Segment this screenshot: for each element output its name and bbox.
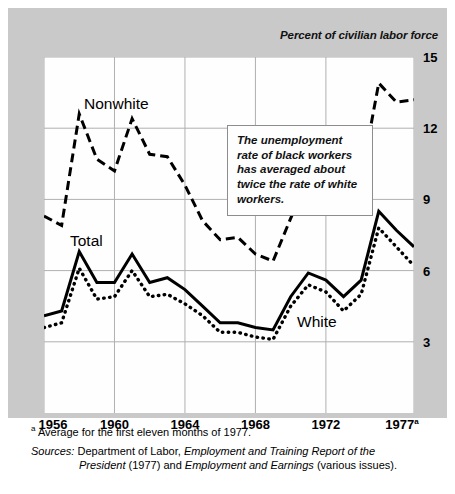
- chart-panel: Percent of civilian labor force Nonwhite…: [8, 8, 447, 418]
- series-label-nonwhite: Nonwhite: [84, 95, 149, 113]
- y-axis-title: Percent of civilian labor force: [280, 29, 438, 41]
- sources-italic-3: Employment and Earnings: [185, 459, 314, 471]
- footnotes: a Average for the first eleven months of…: [8, 424, 447, 473]
- sources-label: Sources:: [31, 445, 74, 457]
- chart-figure: Percent of civilian labor force Nonwhite…: [0, 0, 455, 494]
- sources-text-2: (1977) and: [125, 459, 184, 471]
- y-tick-label: 12: [423, 121, 437, 136]
- footnote-marker: a: [31, 424, 35, 433]
- series-label-white: White: [297, 313, 337, 331]
- sources-italic-1: Employment and Training Report of the: [184, 445, 375, 457]
- sources-note: Sources: Department of Labor, Employment…: [31, 444, 447, 473]
- sources-italic-2: President: [79, 459, 125, 471]
- y-tick-label: 6: [423, 263, 430, 278]
- y-tick-label: 3: [423, 334, 430, 349]
- y-tick-label: 15: [423, 50, 437, 65]
- footnote-a: a Average for the first eleven months of…: [31, 424, 447, 438]
- callout-text: The unemployment rate of black workers h…: [237, 133, 364, 207]
- series-label-total: Total: [70, 232, 103, 250]
- sources-text-3: (various issues).: [314, 459, 397, 471]
- callout-box: The unemployment rate of black workers h…: [227, 125, 373, 216]
- sources-text-1: Department of Labor,: [77, 445, 183, 457]
- y-tick-label: 9: [423, 192, 430, 207]
- plot-area: Nonwhite Total White The unemployment ra…: [44, 57, 414, 413]
- sources-line-2: President (1977) and Employment and Earn…: [79, 458, 447, 473]
- footnote-a-text: Average for the first eleven months of 1…: [38, 426, 251, 438]
